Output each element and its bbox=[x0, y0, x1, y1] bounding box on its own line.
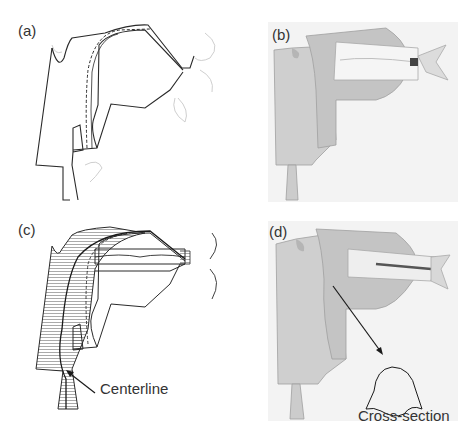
panel-d: (d) Cross-section bbox=[236, 219, 473, 438]
panel-c: (c) Centerline bbox=[0, 219, 236, 438]
panel-a: (a) bbox=[0, 0, 236, 219]
vocal-tract-3d-cross-section bbox=[236, 219, 473, 438]
cross-section-label: Cross-section bbox=[358, 407, 450, 424]
centerline-label: Centerline bbox=[100, 380, 168, 397]
panel-b: (b) bbox=[236, 0, 473, 219]
midsagittal-outline-diagram bbox=[0, 0, 236, 219]
vocal-tract-3d-render bbox=[236, 0, 473, 219]
hatched-area-diagram bbox=[0, 219, 236, 438]
